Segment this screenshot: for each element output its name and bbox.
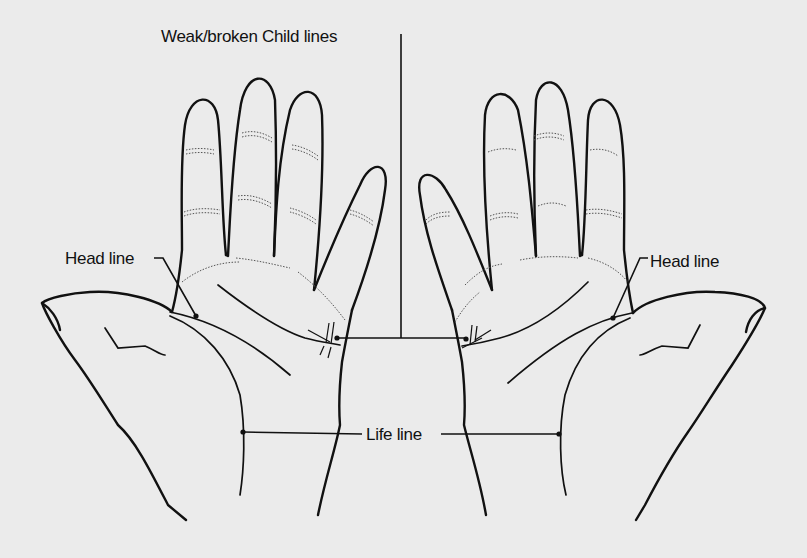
left-finger-creases	[182, 132, 374, 320]
right-little-finger	[582, 100, 633, 313]
right-index-finger	[419, 175, 492, 310]
right-hand	[419, 82, 765, 520]
left-hand	[42, 79, 386, 520]
hands-illustration	[0, 0, 807, 558]
left-head-line	[170, 312, 290, 375]
left-little-finger	[172, 100, 226, 312]
right-life-line	[561, 318, 630, 495]
right-thumb-crease	[640, 325, 700, 355]
child-lines-label: Weak/broken Child lines	[161, 28, 337, 45]
left-palm-edge	[318, 310, 352, 515]
right-palm-edge	[452, 310, 486, 515]
palmistry-diagram: Weak/broken Child lines Head line Head l…	[0, 0, 807, 558]
right-middle-finger	[484, 94, 536, 290]
right-head-line-label: Head line	[650, 253, 719, 270]
left-middle-finger	[274, 92, 323, 290]
left-ring-finger	[226, 79, 276, 256]
life-line-leader-left	[243, 432, 362, 434]
life-line-label: Life line	[366, 426, 422, 443]
right-ring-finger	[534, 82, 582, 256]
left-thumb-outline	[42, 292, 186, 520]
right-head-line-leader	[613, 258, 648, 318]
left-life-line	[170, 316, 244, 495]
left-thumb-crease	[105, 328, 165, 355]
right-child-line-marker	[463, 336, 468, 341]
left-index-finger	[314, 167, 386, 310]
right-head-line	[508, 313, 632, 383]
left-head-line-leader	[154, 258, 196, 316]
left-head-line-label: Head line	[65, 250, 134, 267]
